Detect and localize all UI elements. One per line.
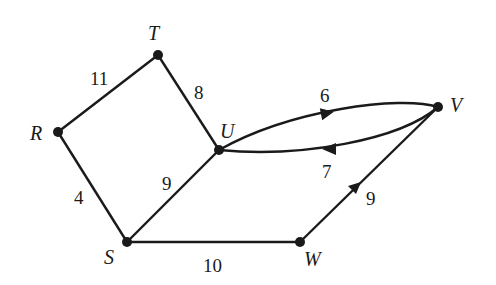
weight-S-U: 9: [162, 173, 172, 194]
graph-canvas: T R U V S W 11 8 4 9 6 7 10 9: [0, 0, 496, 285]
edge-T-U: [158, 55, 219, 150]
node-T: [153, 50, 163, 60]
weight-V-U: 7: [322, 161, 332, 182]
node-label-T: T: [148, 22, 161, 44]
weight-R-T: 11: [90, 68, 108, 89]
weight-S-W: 10: [203, 255, 222, 276]
node-V: [433, 102, 443, 112]
edge-R-T: [58, 55, 158, 132]
edge-W-V: [300, 107, 438, 242]
node-label-R: R: [29, 122, 42, 144]
node-U: [214, 145, 224, 155]
node-label-S: S: [104, 246, 114, 268]
node-W: [295, 237, 305, 247]
arrow-V-U: [322, 143, 336, 155]
edge-R-S: [58, 132, 127, 242]
node-S: [122, 237, 132, 247]
node-label-U: U: [220, 120, 236, 142]
weight-T-U: 8: [194, 82, 204, 103]
weight-W-V: 9: [366, 188, 376, 209]
weight-U-V: 6: [320, 85, 330, 106]
node-label-W: W: [304, 248, 323, 270]
graph-diagram: T R U V S W 11 8 4 9 6 7 10 9: [0, 0, 496, 285]
weight-R-S: 4: [74, 187, 84, 208]
node-label-V: V: [450, 94, 465, 116]
node-R: [53, 127, 63, 137]
edge-S-U: [127, 150, 219, 242]
